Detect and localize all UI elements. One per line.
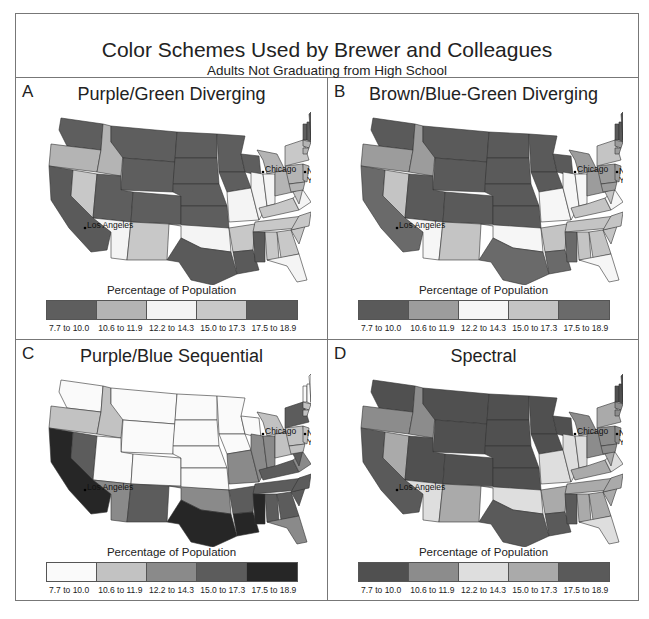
state-ks [493,206,541,228]
city-label: Chicago [577,164,608,174]
state-ar [541,224,567,252]
city-marker [574,433,577,436]
legend-swatch [47,563,97,581]
legend-swatch [559,563,608,581]
panel-title: Purple/Blue Sequential [16,346,327,367]
legend-label: 15.0 to 17.3 [197,323,248,333]
legend-labels: 7.7 to 10.010.6 to 11.912.2 to 14.315.0 … [356,585,612,595]
state-ms [253,494,265,524]
legend-title: Percentage of Population [328,546,639,558]
state-ct [615,148,621,154]
state-nd [487,132,529,158]
legend-swatch [247,563,296,581]
legend-swatch [459,563,509,581]
legend-swatch [359,563,409,581]
legend-swatch [247,301,296,319]
panel-b: B Brown/Blue-Green Diverging ChicagoYork… [328,78,639,339]
us-choropleth-map: ChicagoYorkNewLos Angeles [353,372,623,547]
state-sd [173,158,219,184]
legend-swatch [97,563,147,581]
legend: Percentage of Population 7.7 to 10.010.6… [328,284,639,333]
legend-labels: 7.7 to 10.010.6 to 11.912.2 to 14.315.0 … [44,323,300,333]
city-marker [84,489,87,492]
legend-swatch [409,301,459,319]
legend-label: 12.2 to 14.3 [458,585,509,595]
state-ms [565,494,577,524]
legend: Percentage of Population 7.7 to 10.010.6… [328,546,639,595]
city-label: Chicago [265,164,296,174]
state-al [577,494,591,522]
legend-label: 7.7 to 10.0 [44,323,95,333]
legend-label: 12.2 to 14.3 [458,323,509,333]
state-al [265,494,279,522]
us-choropleth-map: ChicagoYorkNewLos Angeles [41,110,311,285]
legend-swatch [459,301,509,319]
city-marker [616,433,619,436]
city-marker [262,433,265,436]
legend-label: 17.5 to 18.9 [560,323,611,333]
city-marker [304,171,307,174]
city-label-line2: York [307,437,311,447]
legend-bar [358,562,610,582]
legend-label: 12.2 to 14.3 [146,585,197,595]
figure-subtitle: Adults Not Graduating from High School [16,63,638,78]
city-label: Los Angeles [87,220,133,230]
legend-label: 15.0 to 17.3 [197,585,248,595]
city-label: Chicago [577,426,608,436]
legend-label: 17.5 to 18.9 [560,585,611,595]
state-ne [173,446,227,468]
state-vt [615,124,619,140]
legend-swatch [509,301,559,319]
state-sd [173,420,219,446]
figure-header: Color Schemes Used by Brewer and Colleag… [16,14,638,78]
legend-swatch [509,563,559,581]
legend-swatch [147,563,197,581]
legend-swatch [197,563,247,581]
legend-swatch [409,563,459,581]
state-mn [217,396,245,434]
state-co [131,454,181,486]
state-ct [615,410,621,416]
us-choropleth-map: ChicagoYorkNewLos Angeles [353,110,623,285]
city-label: New [619,166,623,176]
figure-title: Color Schemes Used by Brewer and Colleag… [16,39,638,61]
city-marker [396,227,399,230]
city-label: New [307,428,311,438]
city-marker [84,227,87,230]
legend-swatch [559,301,608,319]
city-label: Los Angeles [87,482,133,492]
panel-a: A Purple/Green Diverging ChicagoYorkNewL… [16,78,327,339]
city-marker [396,489,399,492]
city-marker [616,171,619,174]
legend-swatch [359,301,409,319]
state-co [443,454,493,486]
state-ks [493,468,541,490]
legend-title: Percentage of Population [16,546,327,558]
state-al [265,232,279,260]
state-ar [229,486,255,514]
panel-title: Purple/Green Diverging [16,84,327,105]
state-nd [487,394,529,420]
state-vt [615,386,619,402]
panel-title: Brown/Blue-Green Diverging [328,84,639,105]
legend-bar [358,300,610,320]
legend-label: 15.0 to 17.3 [509,585,560,595]
city-label-line2: York [307,175,311,185]
legend-label: 10.6 to 11.9 [95,323,146,333]
state-ms [253,232,265,262]
panel-d: D Spectral ChicagoYorkNewLos Angeles Per… [328,340,639,601]
state-wa [371,380,415,412]
state-nd [175,132,217,158]
figure-frame: Color Schemes Used by Brewer and Colleag… [15,13,639,601]
state-ar [229,224,255,252]
state-co [131,192,181,224]
state-vt [303,386,307,402]
legend-title: Percentage of Population [328,284,639,296]
state-co [443,192,493,224]
legend: Percentage of Population 7.7 to 10.010.6… [16,546,327,595]
legend-swatch [47,301,97,319]
city-marker [574,171,577,174]
panel-title: Spectral [328,346,639,367]
legend-swatch [147,301,197,319]
state-ne [485,446,539,468]
